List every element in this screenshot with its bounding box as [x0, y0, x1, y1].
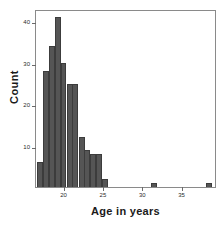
x-axis-tick-label: 20 — [54, 192, 74, 198]
y-axis-tick-label: 30 — [23, 61, 30, 67]
histogram-bar — [84, 150, 90, 187]
histogram-bar — [96, 154, 102, 187]
plot-frame: 10203040 20253035 — [35, 10, 216, 188]
x-axis-tick-label: 30 — [132, 192, 152, 198]
histogram-bar — [102, 179, 108, 187]
y-axis-tick: 10 — [32, 148, 36, 149]
histogram-figure: Count 10203040 20253035 Age in years — [0, 0, 221, 226]
histogram-bar — [49, 46, 55, 187]
y-axis-title: Count — [8, 52, 20, 122]
x-axis-tick: 30 — [142, 187, 143, 191]
histogram-bar — [206, 183, 212, 187]
y-axis-tick-label: 20 — [23, 102, 30, 108]
histogram-bar — [72, 84, 78, 187]
x-axis-title: Age in years — [35, 205, 216, 217]
y-axis-tick-label: 40 — [23, 19, 30, 25]
y-axis-tick: 30 — [32, 65, 36, 66]
y-axis-tick-label: 10 — [23, 144, 30, 150]
x-axis-tick: 25 — [103, 187, 104, 191]
y-axis-tick: 40 — [32, 23, 36, 24]
y-axis-tick: 20 — [32, 106, 36, 107]
x-axis-tick: 20 — [64, 187, 65, 191]
x-axis-tick: 35 — [182, 187, 183, 191]
histogram-bar — [151, 183, 157, 187]
histogram-bar — [37, 162, 43, 187]
x-axis-tick-label: 35 — [172, 192, 192, 198]
plot-area — [36, 11, 215, 187]
histogram-bar — [61, 63, 67, 187]
caption-strip — [6, 220, 215, 225]
x-axis-tick-label: 25 — [93, 192, 113, 198]
